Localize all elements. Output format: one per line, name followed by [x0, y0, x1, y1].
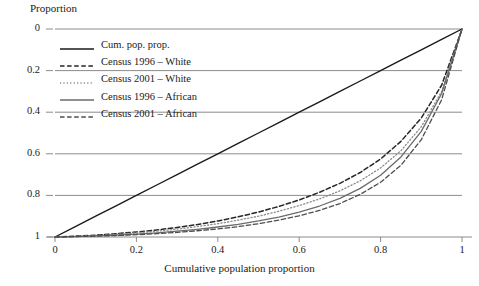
x-tick-label: 0.6	[284, 244, 314, 255]
x-axis-title: Cumulative population proportion	[0, 262, 479, 274]
legend-swatch-icon	[60, 57, 94, 67]
lorenz-curve-figure: Proportion Cumulative population proport…	[0, 0, 479, 286]
x-tick-label: 0.8	[366, 244, 396, 255]
legend-item: Census 2001 – White	[60, 70, 197, 87]
legend-label: Census 1996 – White	[101, 56, 191, 67]
y-tick-label: 0.6	[10, 147, 40, 158]
y-tick-label: 0.8	[10, 188, 40, 199]
legend-swatch-icon	[60, 74, 94, 84]
legend-label: Census 2001 – African	[101, 108, 197, 119]
chart-legend: Cum. pop. prop.Census 1996 – WhiteCensus…	[60, 36, 197, 122]
x-tick-label: 1	[447, 244, 477, 255]
legend-item: Census 1996 – White	[60, 53, 197, 70]
legend-item: Census 1996 – African	[60, 88, 197, 105]
legend-label: Census 2001 – White	[101, 73, 191, 84]
x-tick-label: 0.2	[121, 244, 151, 255]
legend-label: Census 1996 – African	[101, 91, 197, 102]
legend-swatch-icon	[60, 91, 94, 101]
legend-label: Cum. pop. prop.	[101, 39, 170, 50]
x-tick-label: 0	[40, 244, 70, 255]
legend-swatch-icon	[60, 108, 94, 118]
x-tick-label: 0.4	[203, 244, 233, 255]
y-tick-label: 0	[10, 22, 40, 33]
y-tick-label: 0.2	[10, 64, 40, 75]
y-tick-label: 0.4	[10, 105, 40, 116]
y-axis-title: Proportion	[30, 2, 77, 14]
legend-item: Census 2001 – African	[60, 105, 197, 122]
legend-item: Cum. pop. prop.	[60, 36, 197, 53]
y-tick-label: 1	[10, 230, 40, 241]
legend-swatch-icon	[60, 40, 94, 50]
